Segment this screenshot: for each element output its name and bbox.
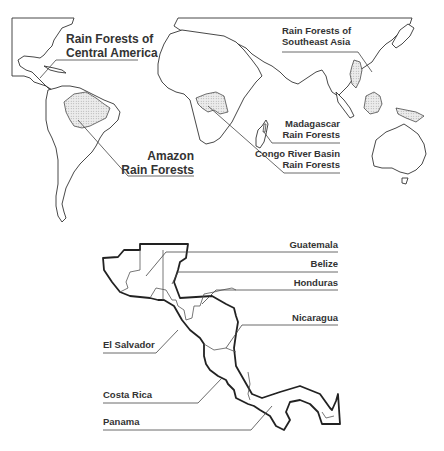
label-line-2: Rain Forests [110,164,194,178]
label-central-america-rain-forests: Rain Forests of Central America [66,33,138,61]
borneo-island [364,92,382,114]
label-line-2: Rain Forests [250,160,340,171]
label-costa-rica: Costa Rica [103,390,152,401]
tasmania-island [402,178,408,184]
label-guatemala: Guatemala [260,240,338,251]
label-madagascar-rain-forests: Madagascar Rain Forests [270,119,340,141]
label-honduras: Honduras [260,278,338,289]
label-amazon-rain-forests: Amazon Rain Forests [110,150,194,178]
new-guinea-island [396,108,424,122]
label-southeast-asia-rain-forests: Rain Forests of Southeast Asia [282,26,351,48]
label-nicaragua: Nicaragua [260,313,338,324]
north-america-landmass [12,18,74,90]
label-line-2: Southeast Asia [282,37,351,48]
map-canvas [0,0,444,451]
label-congo-rain-forests: Congo River Basin Rain Forests [250,149,340,171]
label-line-2: Central America [66,47,138,61]
label-panama: Panama [103,417,139,428]
central-america-map [103,244,340,430]
label-line-1: Rain Forests of [66,33,138,47]
leader-nicaragua [226,325,338,348]
label-el-salvador: El Salvador [103,340,155,351]
australia-landmass [372,124,426,174]
sumatra-island [336,92,354,118]
label-line-2: Rain Forests [270,130,340,141]
label-belize: Belize [260,259,338,270]
label-line-1: Amazon [110,150,194,164]
